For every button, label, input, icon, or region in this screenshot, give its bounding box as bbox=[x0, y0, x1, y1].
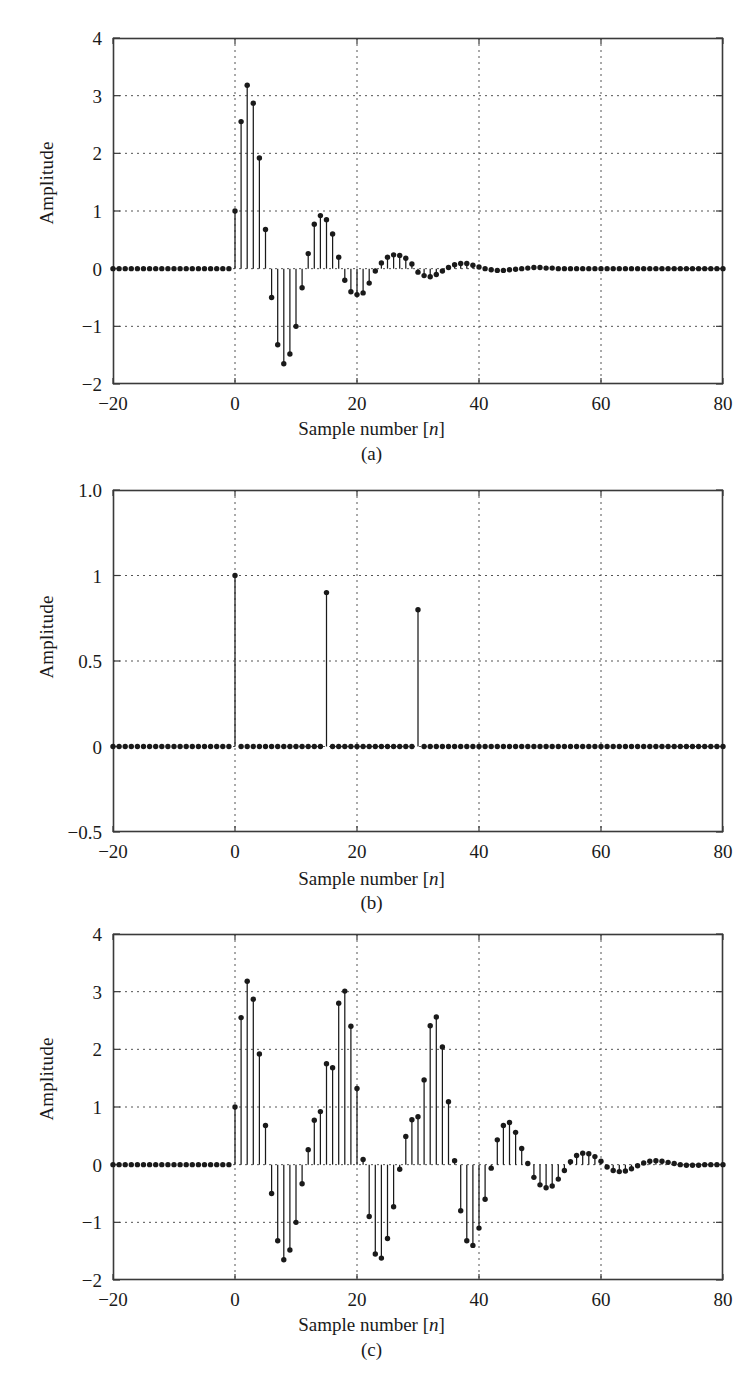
stem-marker bbox=[129, 1162, 134, 1167]
stem-marker bbox=[720, 1162, 725, 1167]
stem-marker bbox=[238, 1015, 243, 1020]
plot-c-ylabel: Amplitude bbox=[36, 999, 58, 1159]
stem-marker bbox=[452, 1158, 457, 1163]
stem-marker bbox=[263, 227, 268, 232]
stem-marker bbox=[543, 1185, 548, 1190]
stem-marker bbox=[611, 744, 616, 749]
plot-c-canvas: −20020406080−2−101234 bbox=[113, 934, 723, 1280]
stem-marker bbox=[245, 979, 250, 984]
stem-marker bbox=[330, 744, 335, 749]
stem-marker bbox=[220, 266, 225, 271]
stem-plot-figure: −20020406080−2−101234 Amplitude Sample n… bbox=[0, 0, 743, 1378]
stem-marker bbox=[257, 1051, 262, 1056]
stem-marker bbox=[525, 265, 530, 270]
stem-marker bbox=[245, 744, 250, 749]
stem-marker bbox=[574, 744, 579, 749]
stem-marker bbox=[525, 744, 530, 749]
stem-marker bbox=[141, 744, 146, 749]
stem-marker bbox=[696, 266, 701, 271]
stem-marker bbox=[299, 744, 304, 749]
stem-marker bbox=[147, 266, 152, 271]
stem-marker bbox=[568, 744, 573, 749]
stem-marker bbox=[312, 744, 317, 749]
stem-marker bbox=[489, 744, 494, 749]
stem-marker bbox=[464, 744, 469, 749]
stem-marker bbox=[482, 744, 487, 749]
stem-marker bbox=[171, 1162, 176, 1167]
xtick-label: 40 bbox=[470, 393, 489, 414]
xtick-label: 80 bbox=[714, 1289, 733, 1310]
stem-marker bbox=[269, 295, 274, 300]
stem-marker bbox=[385, 254, 390, 259]
stem-series bbox=[110, 573, 725, 749]
stem-marker bbox=[501, 1123, 506, 1128]
stem-marker bbox=[458, 1208, 463, 1213]
stem-marker bbox=[513, 1130, 518, 1135]
stem-marker bbox=[586, 744, 591, 749]
ytick-label: 1 bbox=[93, 1097, 103, 1118]
xtick-label: 20 bbox=[348, 1289, 367, 1310]
xtick-label: 40 bbox=[470, 841, 489, 862]
ytick-label: 4 bbox=[93, 924, 103, 945]
xtick-label: −20 bbox=[98, 841, 128, 862]
stem-marker bbox=[330, 231, 335, 236]
stem-marker bbox=[159, 744, 164, 749]
stem-marker bbox=[293, 1220, 298, 1225]
stem-marker bbox=[190, 266, 195, 271]
stem-marker bbox=[586, 266, 591, 271]
stem-marker bbox=[525, 1161, 530, 1166]
stem-marker bbox=[556, 1176, 561, 1181]
stem-marker bbox=[110, 1162, 115, 1167]
stem-marker bbox=[635, 744, 640, 749]
stem-marker bbox=[507, 744, 512, 749]
stem-marker bbox=[202, 744, 207, 749]
stem-marker bbox=[537, 744, 542, 749]
stem-marker bbox=[251, 744, 256, 749]
stem-marker bbox=[306, 1147, 311, 1152]
stem-marker bbox=[464, 261, 469, 266]
stem-marker bbox=[153, 744, 158, 749]
ytick-label: 2 bbox=[93, 143, 103, 164]
stem-marker bbox=[318, 213, 323, 218]
stem-marker bbox=[482, 1197, 487, 1202]
stem-marker bbox=[415, 269, 420, 274]
stem-marker bbox=[110, 266, 115, 271]
stem-marker bbox=[440, 744, 445, 749]
stem-marker bbox=[177, 1162, 182, 1167]
ytick-label: 0 bbox=[93, 737, 103, 758]
stem-marker bbox=[678, 266, 683, 271]
stem-marker bbox=[232, 1104, 237, 1109]
stem-marker bbox=[714, 1162, 719, 1167]
stem-marker bbox=[617, 744, 622, 749]
stem-marker bbox=[184, 266, 189, 271]
xtick-label: 0 bbox=[230, 1289, 240, 1310]
stem-marker bbox=[367, 1214, 372, 1219]
stem-marker bbox=[440, 1044, 445, 1049]
stem-marker bbox=[495, 268, 500, 273]
plot-a-svg: −20020406080−2−101234 bbox=[113, 38, 723, 384]
ytick-label: 0 bbox=[93, 1155, 103, 1176]
stem-marker bbox=[232, 573, 237, 578]
stem-marker bbox=[556, 744, 561, 749]
stem-marker bbox=[153, 1162, 158, 1167]
plot-b-ylabel: Amplitude bbox=[36, 557, 58, 717]
ytick-label: 3 bbox=[93, 982, 103, 1003]
stem-marker bbox=[263, 744, 268, 749]
stem-marker bbox=[409, 261, 414, 266]
stem-marker bbox=[379, 1255, 384, 1260]
stem-marker bbox=[598, 266, 603, 271]
stem-marker bbox=[672, 266, 677, 271]
stem-marker bbox=[604, 744, 609, 749]
stem-marker bbox=[720, 744, 725, 749]
plot-a-xlabel-var: n bbox=[429, 418, 439, 439]
stem-marker bbox=[495, 744, 500, 749]
stem-marker bbox=[287, 351, 292, 356]
ytick-label: 4 bbox=[93, 28, 103, 49]
stem-marker bbox=[604, 1164, 609, 1169]
stem-marker bbox=[348, 744, 353, 749]
stem-marker bbox=[190, 744, 195, 749]
stem-marker bbox=[653, 266, 658, 271]
stem-marker bbox=[171, 266, 176, 271]
plot-c-xlabel-suffix: ] bbox=[439, 1314, 445, 1335]
stem-marker bbox=[153, 266, 158, 271]
